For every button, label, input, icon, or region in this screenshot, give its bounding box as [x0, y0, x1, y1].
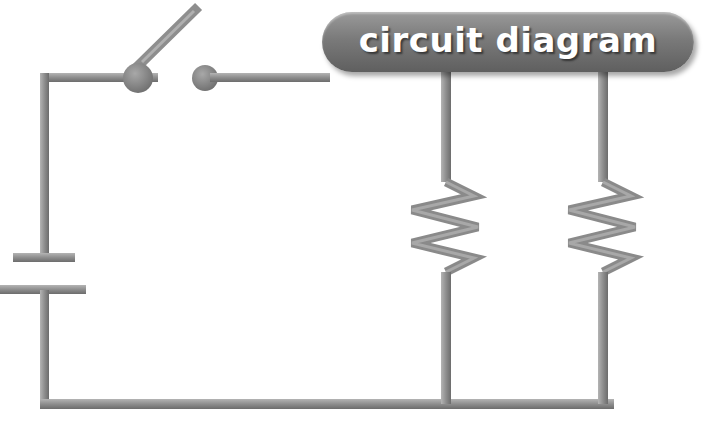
resistor-1-icon	[412, 72, 478, 404]
wire-left-bottom	[40, 290, 614, 409]
circuit-diagram: circuit diagram	[0, 0, 708, 441]
wire-top	[210, 73, 330, 82]
resistor-2-icon	[569, 72, 635, 404]
diagram-title: circuit diagram	[359, 20, 658, 60]
wire-left-top	[40, 73, 158, 259]
battery-icon	[0, 253, 86, 294]
title-label: circuit diagram	[322, 12, 694, 72]
switch-icon	[123, 10, 218, 93]
